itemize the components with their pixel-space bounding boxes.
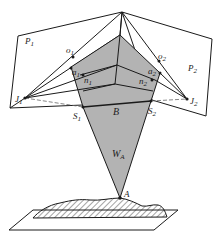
label-p2: P2 bbox=[187, 63, 198, 75]
baseline-dashed-right bbox=[151, 99, 187, 101]
label-a: A bbox=[123, 189, 130, 199]
label-s1: S1 bbox=[73, 111, 81, 123]
ray-j2-a2 bbox=[160, 73, 187, 99]
point-s1 bbox=[82, 106, 85, 109]
baseline-dashed-left bbox=[25, 98, 83, 107]
point-a2 bbox=[159, 72, 162, 75]
label-s2: S2 bbox=[148, 106, 157, 118]
point-s2 bbox=[150, 100, 153, 103]
label-p1: P1 bbox=[24, 36, 34, 48]
terrain-hill bbox=[33, 198, 167, 218]
label-o1: o1 bbox=[66, 45, 74, 57]
point-j1 bbox=[23, 96, 26, 99]
central-ray bbox=[120, 12, 122, 35]
label-b: B bbox=[113, 106, 119, 117]
diagram-canvas: P1 P2 o1 o2 a1 a2 n1 n2 J1 J2 S1 S2 B WA… bbox=[0, 0, 222, 238]
point-j2 bbox=[185, 97, 188, 100]
point-n2 bbox=[151, 79, 154, 82]
label-j2: J2 bbox=[190, 96, 198, 108]
ray-j2-n2 bbox=[155, 80, 187, 99]
